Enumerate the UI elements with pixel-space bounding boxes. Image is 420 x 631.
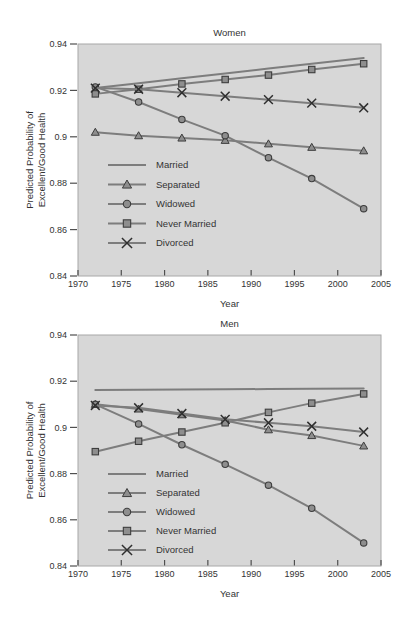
men-ytick-label: 0.9 bbox=[54, 423, 67, 433]
women-ytick-label: 0.94 bbox=[49, 39, 67, 49]
men-chart-title: Men bbox=[220, 318, 238, 329]
women-xtick-label: 1990 bbox=[241, 279, 261, 289]
men-ytick-label: 0.86 bbox=[49, 515, 67, 525]
men-xtick-label: 2000 bbox=[328, 569, 348, 579]
men-xtick-label: 1980 bbox=[155, 569, 175, 579]
men-x-axis-label: Year bbox=[220, 588, 239, 599]
men-xtick-label: 1990 bbox=[241, 569, 261, 579]
women-xtick-label: 1975 bbox=[111, 279, 131, 289]
men-xtick-label: 2005 bbox=[371, 569, 391, 579]
women-ytick-label: 0.88 bbox=[49, 178, 67, 188]
men-ytick-label: 0.92 bbox=[49, 376, 67, 386]
women-marker-never-married-1992 bbox=[265, 72, 271, 78]
men-legend-label-married: Married bbox=[156, 468, 188, 479]
men-marker-widowed-1977 bbox=[135, 421, 141, 427]
men-xtick-label: 1995 bbox=[284, 569, 304, 579]
women-legend-label-never-married: Never Married bbox=[156, 218, 216, 229]
men-legend-marker-widowed bbox=[123, 508, 130, 515]
women-marker-never-married-1982 bbox=[179, 81, 185, 87]
women-legend-item-never-married: Never Married bbox=[108, 218, 216, 229]
women-ytick-label: 0.84 bbox=[49, 271, 67, 281]
men-marker-never-married-1997 bbox=[309, 400, 315, 406]
men-chart: 0.840.860.880.90.920.9419701975198019851… bbox=[24, 318, 391, 599]
men-legend-label-divorced: Divorced bbox=[156, 544, 194, 555]
men-y-axis-label-line2: Excellent/Good Health bbox=[36, 403, 47, 498]
women-xtick-label: 2000 bbox=[328, 279, 348, 289]
women-xtick-label: 2005 bbox=[371, 279, 391, 289]
men-marker-widowed-1982 bbox=[179, 442, 185, 448]
men-marker-never-married-1982 bbox=[179, 429, 185, 435]
women-y-axis-label-line2: Excellent/Good Health bbox=[36, 113, 47, 208]
men-marker-widowed-1992 bbox=[265, 482, 271, 488]
women-chart-title: Women bbox=[213, 27, 246, 38]
women-legend-label-separated: Separated bbox=[156, 179, 200, 190]
men-xtick-label: 1985 bbox=[198, 569, 218, 579]
men-y-axis-label-line1: Predicted Probability of bbox=[24, 401, 35, 499]
women-xtick-label: 1985 bbox=[198, 279, 218, 289]
women-xtick-label: 1970 bbox=[68, 279, 88, 289]
women-y-axis-label-line1: Predicted Probability of bbox=[24, 111, 35, 209]
men-legend-item-never-married: Never Married bbox=[108, 525, 216, 536]
men-marker-never-married-2003 bbox=[360, 391, 366, 397]
men-marker-widowed-2003 bbox=[360, 540, 366, 546]
women-legend-marker-never-married bbox=[123, 220, 130, 227]
men-marker-never-married-1992 bbox=[265, 409, 271, 415]
women-marker-widowed-2003 bbox=[360, 206, 366, 212]
women-marker-widowed-1977 bbox=[135, 99, 141, 105]
women-marker-never-married-2003 bbox=[360, 61, 366, 67]
women-marker-widowed-1987 bbox=[222, 132, 228, 138]
women-ytick-label: 0.86 bbox=[49, 225, 67, 235]
men-legend-label-widowed: Widowed bbox=[156, 506, 195, 517]
men-legend-marker-never-married bbox=[123, 527, 130, 534]
women-legend-label-divorced: Divorced bbox=[156, 237, 194, 248]
men-legend-label-never-married: Never Married bbox=[156, 525, 216, 536]
women-ytick-label: 0.92 bbox=[49, 86, 67, 96]
men-legend-label-separated: Separated bbox=[156, 487, 200, 498]
men-marker-widowed-1987 bbox=[222, 461, 228, 467]
women-xtick-label: 1995 bbox=[284, 279, 304, 289]
women-marker-widowed-1992 bbox=[265, 154, 271, 160]
women-x-axis-label: Year bbox=[220, 298, 239, 309]
men-xtick-label: 1975 bbox=[111, 569, 131, 579]
women-marker-never-married-1972 bbox=[92, 91, 98, 97]
men-marker-widowed-1997 bbox=[309, 505, 315, 511]
men-ytick-label: 0.94 bbox=[49, 330, 67, 340]
men-ytick-label: 0.84 bbox=[49, 561, 67, 571]
women-legend-label-widowed: Widowed bbox=[156, 198, 195, 209]
women-marker-never-married-1997 bbox=[309, 66, 315, 72]
women-marker-widowed-1982 bbox=[179, 116, 185, 122]
men-marker-never-married-1972 bbox=[92, 448, 98, 454]
men-series-line-married bbox=[95, 389, 363, 390]
women-marker-widowed-1972 bbox=[92, 84, 98, 90]
women-marker-widowed-1997 bbox=[309, 175, 315, 181]
women-xtick-label: 1980 bbox=[155, 279, 175, 289]
health-probability-figure: 0.840.860.880.90.920.9419701975198019851… bbox=[0, 0, 420, 631]
women-marker-never-married-1987 bbox=[222, 76, 228, 82]
men-marker-never-married-1977 bbox=[135, 438, 141, 444]
women-legend-label-married: Married bbox=[156, 159, 188, 170]
figure-canvas: 0.840.860.880.90.920.9419701975198019851… bbox=[0, 0, 420, 631]
men-ytick-label: 0.88 bbox=[49, 469, 67, 479]
women-chart: 0.840.860.880.90.920.9419701975198019851… bbox=[24, 27, 391, 309]
women-ytick-label: 0.9 bbox=[54, 132, 67, 142]
men-xtick-label: 1970 bbox=[68, 569, 88, 579]
women-legend-marker-widowed bbox=[123, 200, 130, 207]
